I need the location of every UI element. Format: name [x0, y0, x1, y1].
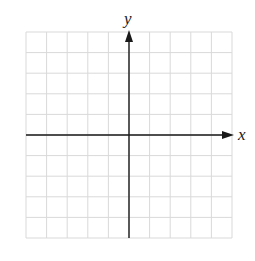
x-axis-label: x	[237, 125, 246, 144]
y-axis-label: y	[122, 9, 132, 28]
coordinate-plane: x y	[0, 0, 255, 261]
